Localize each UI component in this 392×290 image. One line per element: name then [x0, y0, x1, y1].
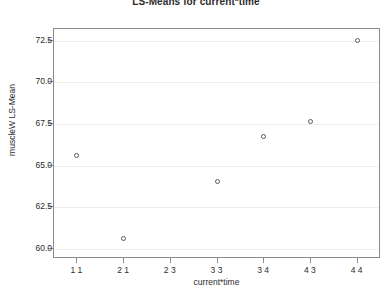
gridline [54, 207, 379, 208]
x-axis-title: current*time [53, 277, 380, 287]
y-tick-label: 62.5 [12, 201, 52, 211]
x-tick-mark [310, 258, 311, 263]
data-point-marker [74, 153, 79, 158]
gridline [54, 82, 379, 83]
x-tick-mark [217, 258, 218, 263]
x-tick-mark [76, 258, 77, 263]
gridline [54, 41, 379, 42]
x-tick-mark [123, 258, 124, 263]
data-point-marker [215, 179, 220, 184]
chart-container: LS-Means for current*time muscleW LS-Mea… [0, 0, 392, 290]
y-tick-label: 67.5 [12, 118, 52, 128]
y-tick-label: 60.0 [12, 243, 52, 253]
x-tick-mark [357, 258, 358, 263]
x-tick-label: 4 4 [327, 265, 387, 275]
y-tick-label: 72.5 [12, 35, 52, 45]
gridline [54, 124, 379, 125]
data-point-marker [261, 134, 266, 139]
gridline [54, 249, 379, 250]
y-tick-label: 70.0 [12, 76, 52, 86]
gridline [54, 166, 379, 167]
data-point-marker [355, 38, 360, 43]
data-point-marker [121, 236, 126, 241]
x-tick-mark [263, 258, 264, 263]
plot-area [53, 28, 380, 258]
chart-title: LS-Means for current*time [0, 0, 392, 7]
y-tick-label: 65.0 [12, 160, 52, 170]
x-tick-mark [170, 258, 171, 263]
